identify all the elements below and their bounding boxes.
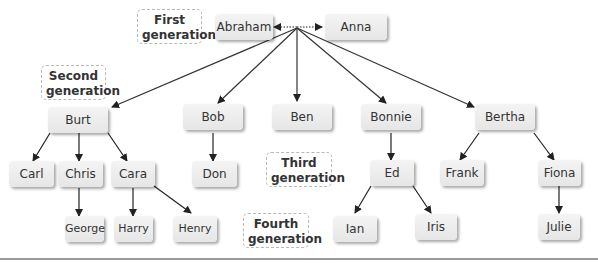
person-node-ed: Ed — [370, 160, 414, 186]
person-node-anna: Anna — [325, 14, 387, 40]
person-node-george: George — [65, 216, 104, 242]
person-node-carl: Carl — [9, 161, 54, 187]
person-node-bertha: Bertha — [475, 104, 535, 130]
person-node-iris: Iris — [415, 214, 457, 240]
person-node-fiona: Fiona — [538, 160, 581, 186]
person-node-harry: Harry — [114, 216, 153, 242]
family-tree-diagram: First generation Second generation Third… — [0, 0, 598, 263]
second-generation-label: Second generation — [41, 65, 106, 100]
first-generation-label: First generation — [137, 9, 202, 44]
person-node-abraham: Abraham — [215, 14, 273, 40]
fourth-generation-label: Fourth generation — [243, 213, 309, 248]
person-node-julie: Julie — [538, 214, 580, 240]
person-node-chris: Chris — [58, 161, 103, 187]
person-node-cara: Cara — [111, 161, 155, 187]
person-node-don: Don — [192, 161, 237, 187]
person-node-bonnie: Bonnie — [361, 104, 421, 130]
bottom-divider — [0, 258, 598, 260]
person-node-burt: Burt — [48, 107, 108, 133]
person-node-ben: Ben — [272, 104, 332, 130]
person-node-ian: Ian — [333, 216, 377, 242]
person-node-bob: Bob — [183, 104, 243, 130]
person-node-frank: Frank — [440, 160, 484, 186]
third-generation-label: Third generation — [266, 152, 332, 187]
person-node-henry: Henry — [173, 216, 217, 242]
